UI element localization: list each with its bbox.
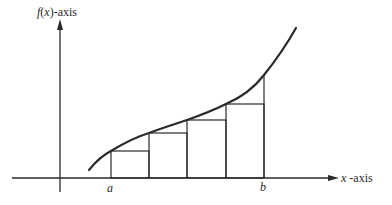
x-axis-label: x -axis [340, 171, 373, 185]
rectangle-4 [226, 104, 264, 178]
interval-end-label: b [260, 180, 266, 194]
rectangle-3 [187, 120, 226, 178]
y-axis-label: f(x)-axis [37, 5, 77, 19]
interval-start-label: a [107, 181, 113, 195]
y-axis-arrow-icon [57, 19, 63, 30]
rectangles [111, 104, 264, 178]
x-axis-arrow-icon [328, 175, 339, 181]
rectangle-1 [111, 151, 149, 178]
rectangle-2 [149, 133, 187, 178]
function-curve [89, 28, 296, 170]
riemann-sum-diagram: f(x)-axis x -axis a b [0, 0, 392, 205]
